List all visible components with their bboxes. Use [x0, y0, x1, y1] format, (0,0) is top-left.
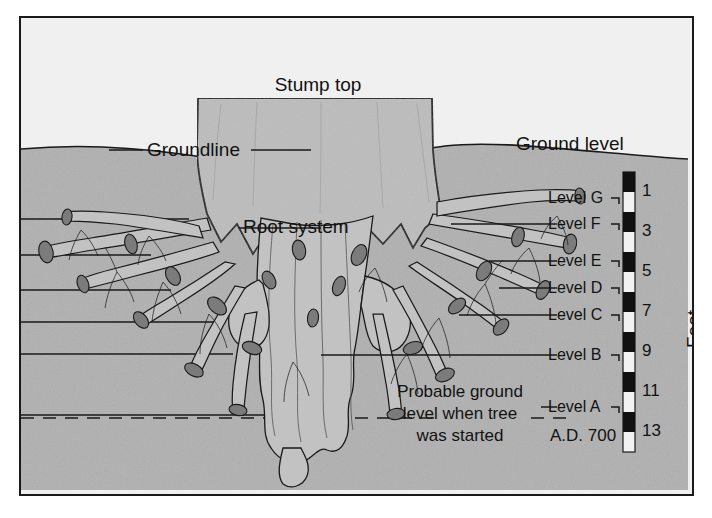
scale-seg-2 — [623, 252, 635, 272]
scale-seg-4 — [623, 332, 635, 352]
scale-seg-5 — [623, 372, 635, 392]
scale-seg-6 — [623, 412, 635, 432]
depth-scale-bar — [623, 172, 635, 452]
probable-ground-note-line3: was started — [370, 427, 550, 444]
stump-top-label: Stump top — [258, 75, 378, 94]
level-label-d: Level D — [548, 280, 602, 296]
groundline-label: Groundline — [147, 140, 240, 159]
scale-tick-13: 13 — [642, 422, 661, 439]
scale-tick-11: 11 — [642, 382, 660, 399]
scale-seg-3 — [623, 292, 635, 312]
scale-tick-3: 3 — [642, 222, 651, 239]
level-label-b: Level B — [548, 347, 601, 363]
scale-tick-7: 7 — [642, 302, 651, 319]
ground-level-label: Ground level — [516, 134, 624, 153]
diagram-stage: Stump top Ground level Groundline Root s… — [0, 0, 712, 518]
scale-seg-1 — [623, 212, 635, 232]
level-label-g: Level G — [548, 190, 603, 206]
scale-tick-5: 5 — [642, 262, 651, 279]
scale-seg-0 — [623, 172, 635, 192]
root-system-label: Root system — [243, 217, 349, 236]
level-label-c: Level C — [548, 307, 602, 323]
diagram-frame: Stump top Ground level Groundline Root s… — [19, 16, 694, 496]
scale-axis-title: Feet — [684, 310, 694, 348]
level-label-f: Level F — [548, 216, 600, 232]
scale-tick-9: 9 — [642, 342, 651, 359]
date-label: A.D. 700 — [550, 427, 616, 444]
level-label-e: Level E — [548, 253, 601, 269]
root-column-taproot — [279, 448, 308, 487]
level-label-a: Level A — [548, 399, 600, 415]
probable-ground-note-line1: Probable ground — [370, 383, 550, 400]
scale-tick-1: 1 — [642, 182, 651, 199]
probable-ground-note-line2: level when tree — [370, 405, 550, 422]
